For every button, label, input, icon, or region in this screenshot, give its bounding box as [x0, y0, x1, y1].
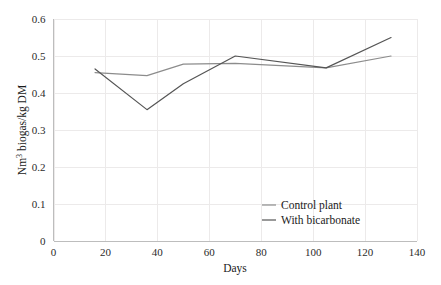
x-tick-label: 40 [152, 246, 164, 258]
y-axis-tick-labels: 00.10.20.30.40.50.6 [32, 13, 46, 247]
y-tick-label: 0.4 [32, 87, 46, 99]
x-tick-label: 0 [51, 246, 57, 258]
legend-label-1: Control plant [281, 199, 343, 212]
legend: Control plantWith bicarbonate [262, 199, 360, 226]
y-tick-label: 0.6 [32, 13, 46, 25]
series-line-1 [95, 56, 391, 76]
x-tick-label: 100 [305, 246, 322, 258]
chart-container: 00.10.20.30.40.50.6 020406080100120140 D… [0, 0, 441, 285]
x-tick-label: 120 [357, 246, 374, 258]
x-tick-label: 20 [100, 246, 112, 258]
x-axis-tick-labels: 020406080100120140 [51, 246, 426, 258]
x-tick-label: 80 [256, 246, 268, 258]
y-tick-label: 0.3 [32, 124, 46, 136]
x-axis-title: Days [223, 262, 247, 275]
legend-label-2: With bicarbonate [281, 214, 360, 226]
x-tick-label: 60 [204, 246, 216, 258]
y-tick-label: 0.1 [32, 198, 46, 210]
line-chart: 00.10.20.30.40.50.6 020406080100120140 D… [0, 0, 441, 285]
y-axis-title: Nm3 biogas/kg DM [15, 85, 29, 175]
svg-text:Nm3 biogas/kg DM: Nm3 biogas/kg DM [15, 85, 29, 175]
y-tick-label: 0.2 [32, 161, 46, 173]
gridlines-horizontal [54, 20, 418, 242]
x-tick-label: 140 [409, 246, 426, 258]
series-line-2 [95, 38, 391, 110]
y-tick-label: 0 [40, 235, 46, 247]
y-tick-label: 0.5 [32, 50, 46, 62]
series-lines [95, 38, 391, 110]
